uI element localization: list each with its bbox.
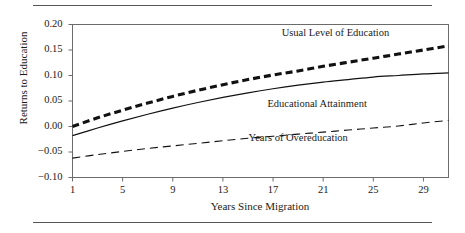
x-axis-title: Years Since Migration [72,200,448,212]
series-label: Years of Overeducation [249,132,348,143]
x-tick-label: 1 [58,184,88,195]
y-axis-title: Returns to Education [17,8,29,148]
series-line-1 [73,73,449,136]
x-tick-label: 13 [208,184,238,195]
x-tick-label: 21 [308,184,338,195]
x-tick-label: 9 [158,184,188,195]
x-tick-label: 25 [358,184,388,195]
line-chart-figure: −0.10−0.050.000.050.100.150.20 159131721… [0,0,465,233]
y-tick-label: −0.10 [23,171,63,182]
plot-frame [73,25,449,178]
x-tick-label: 5 [108,184,138,195]
x-tick-label: 29 [408,184,438,195]
series-label: Educational Attainment [267,98,366,109]
x-tick-label: 17 [258,184,288,195]
plot-canvas [0,0,465,233]
tick-marks [69,25,424,182]
series-label: Usual Level of Education [282,27,390,38]
series-line-0 [73,46,449,127]
